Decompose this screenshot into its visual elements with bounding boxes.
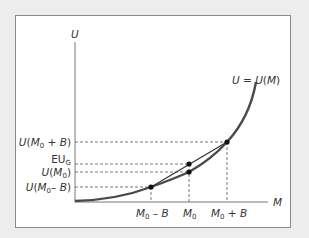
curve-label-u: U [232,74,240,86]
y-axis-label: U [71,29,79,40]
label-u-m0-minus-b: U(M0– B) [26,182,71,195]
points [148,139,229,189]
curve-label-u2: U [255,74,263,86]
curve-label: U = U(M) [232,75,280,86]
label-m0: M0 [183,208,197,221]
utility-diagram [0,0,309,238]
dashed-guides [75,142,227,202]
label-m0-minus-b: M0 – B [136,208,169,221]
label-u-m0: U(M0) [42,167,71,180]
x-axis-label: M [273,197,282,208]
label-m0-plus-b: M0 + B [211,208,247,221]
label-u-m0-plus-b: U(M0 + B) [19,137,71,150]
curve-label-m: M [267,74,276,86]
